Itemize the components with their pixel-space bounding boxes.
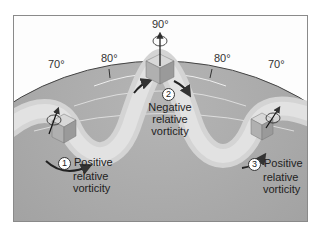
- point-2-label: 2 Negative relative vorticity: [145, 87, 195, 137]
- point-1-number: 1: [58, 157, 71, 170]
- diagram-frame: 70° 80° 90° 80° 70° 2 Negative relative …: [13, 15, 308, 222]
- latitude-label-70-right: 70°: [268, 58, 285, 70]
- earth-sphere: [14, 61, 307, 221]
- point-3-number: 3: [248, 158, 261, 171]
- latitude-label-70-left: 70°: [48, 58, 65, 70]
- latitude-label-80-right: 80°: [214, 52, 231, 64]
- latitude-label-90: 90°: [152, 18, 169, 30]
- point-2-number: 2: [162, 88, 175, 101]
- latitude-label-80-left: 80°: [101, 52, 118, 64]
- point-1-label: 1Positive relative vorticity: [58, 156, 113, 194]
- cube-3: [251, 113, 273, 140]
- point-3-label: 3Positive relative vorticity: [248, 157, 303, 195]
